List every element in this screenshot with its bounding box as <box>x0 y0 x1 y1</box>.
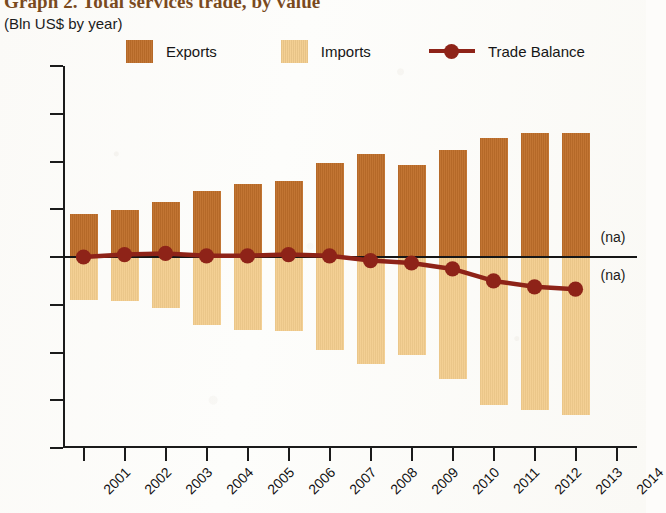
bar-exports-2001 <box>70 214 98 257</box>
x-tick <box>452 448 454 461</box>
y-tick <box>50 352 63 354</box>
x-tick <box>493 448 495 461</box>
page-title: Graph 2. Total services trade, by value <box>4 0 564 12</box>
x-tick <box>370 448 372 461</box>
x-tick <box>616 448 618 461</box>
x-tick <box>534 448 536 461</box>
bar-imports-2001 <box>70 257 98 300</box>
chart-legend: ExportsImportsTrade Balance <box>126 39 585 63</box>
x-axis-line <box>63 446 637 448</box>
legend-line-marker <box>429 41 475 61</box>
bar-exports-2005 <box>234 184 262 257</box>
plot-area: 806040200–20–40–60–80 200120022003200420… <box>63 66 637 448</box>
x-tick-label: 2014 <box>633 464 666 497</box>
x-tick-label: 2002 <box>141 464 174 497</box>
bar-exports-2008 <box>357 154 385 257</box>
legend-label: Exports <box>166 43 217 60</box>
x-tick-label: 2010 <box>469 464 502 497</box>
bar-exports-2006 <box>275 181 303 257</box>
bar-exports-2010 <box>439 150 467 257</box>
x-tick-label: 2008 <box>387 464 420 497</box>
bar-imports-2011 <box>480 257 508 405</box>
x-tick <box>124 448 126 461</box>
x-tick-label: 2006 <box>305 464 338 497</box>
na-upper: (na) <box>601 229 626 245</box>
y-tick <box>50 65 63 67</box>
chart-subtitle: (Bln US$ by year) <box>4 14 564 33</box>
bar-imports-2004 <box>193 257 221 325</box>
x-tick <box>575 448 577 461</box>
x-tick <box>83 448 85 461</box>
bar-imports-2010 <box>439 257 467 379</box>
bar-exports-2012 <box>521 133 549 257</box>
na-lower: (na) <box>601 267 626 283</box>
y-tick <box>50 256 63 258</box>
bar-exports-2009 <box>398 165 426 257</box>
x-tick-label: 2007 <box>346 464 379 497</box>
bar-exports-2011 <box>480 138 508 257</box>
bar-imports-2008 <box>357 257 385 364</box>
legend-item-exports: Exports <box>126 40 217 63</box>
y-tick <box>50 304 63 306</box>
bar-exports-2004 <box>193 191 221 257</box>
x-tick <box>411 448 413 461</box>
bar-imports-2013 <box>562 257 590 415</box>
zero-baseline <box>63 256 637 258</box>
bar-imports-2005 <box>234 257 262 330</box>
legend-item-trade-balance: Trade Balance <box>429 41 585 61</box>
bar-imports-2007 <box>316 257 344 350</box>
bar-exports-2003 <box>152 202 180 257</box>
legend-label: Trade Balance <box>488 43 585 60</box>
x-tick-label: 2012 <box>551 464 584 497</box>
legend-swatch-exports <box>126 40 153 63</box>
x-tick <box>329 448 331 461</box>
x-tick-label: 2005 <box>264 464 297 497</box>
legend-item-imports: Imports <box>281 40 371 63</box>
legend-label: Imports <box>321 43 371 60</box>
x-tick-label: 2001 <box>100 464 133 497</box>
bar-imports-2012 <box>521 257 549 410</box>
bar-imports-2003 <box>152 257 180 308</box>
x-tick-label: 2009 <box>428 464 461 497</box>
bar-imports-2009 <box>398 257 426 355</box>
y-tick <box>50 208 63 210</box>
bar-imports-2006 <box>275 257 303 331</box>
title-block: Graph 2. Total services trade, by value … <box>4 0 564 33</box>
bar-exports-2007 <box>316 163 344 257</box>
x-tick-label: 2003 <box>182 464 215 497</box>
x-tick-label: 2013 <box>592 464 625 497</box>
y-tick <box>50 447 63 449</box>
x-tick <box>206 448 208 461</box>
x-tick <box>165 448 167 461</box>
legend-line-dot <box>444 44 459 59</box>
bar-exports-2013 <box>562 133 590 257</box>
x-tick <box>247 448 249 461</box>
x-tick <box>288 448 290 461</box>
bar-exports-2002 <box>111 210 139 257</box>
x-tick-label: 2004 <box>223 464 256 497</box>
bar-imports-2002 <box>111 257 139 301</box>
y-tick <box>50 161 63 163</box>
y-tick <box>50 399 63 401</box>
y-tick <box>50 113 63 115</box>
x-tick-label: 2011 <box>509 464 542 497</box>
legend-swatch-imports <box>281 40 308 63</box>
